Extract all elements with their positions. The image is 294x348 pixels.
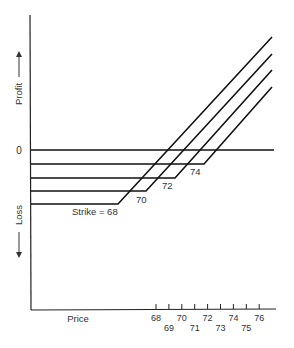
payoff-line-strike-74 <box>31 87 272 164</box>
x-axis <box>31 309 276 310</box>
loss-axis-label: Loss <box>13 205 24 258</box>
strike-label-72: 72 <box>162 180 173 191</box>
x-tick-label: 75 <box>241 323 251 333</box>
strike-label-68: Strike = 68 <box>72 206 118 217</box>
arrow-up-icon <box>16 51 22 57</box>
x-tick-label: 73 <box>215 323 225 333</box>
arrow-down-icon <box>16 252 22 258</box>
x-tick-label: 74 <box>228 313 238 323</box>
payoff-line-strike-72 <box>31 70 272 178</box>
x-tick-label: 69 <box>164 323 174 333</box>
x-axis-ticks: 686970717273747576 <box>151 304 264 333</box>
payoff-line-strike-70 <box>31 54 272 191</box>
svg-text:Profit: Profit <box>13 82 24 105</box>
x-tick-label: 70 <box>177 313 187 323</box>
payoff-chart: 0 Strike = 68 70 72 74 Profit Loss Price… <box>0 0 294 348</box>
strike-label-74: 74 <box>190 166 201 177</box>
x-tick-label: 72 <box>203 313 213 323</box>
svg-text:Loss: Loss <box>13 205 24 225</box>
zero-label: 0 <box>16 145 22 156</box>
x-tick-label: 68 <box>151 313 161 323</box>
profit-axis-label: Profit <box>13 51 24 105</box>
x-tick-label: 71 <box>190 323 200 333</box>
x-tick-label: 76 <box>254 313 264 323</box>
payoff-line-strike-68 <box>31 37 272 204</box>
x-axis-label: Price <box>67 313 89 324</box>
strike-label-70: 70 <box>136 194 147 205</box>
y-axis <box>30 15 31 310</box>
